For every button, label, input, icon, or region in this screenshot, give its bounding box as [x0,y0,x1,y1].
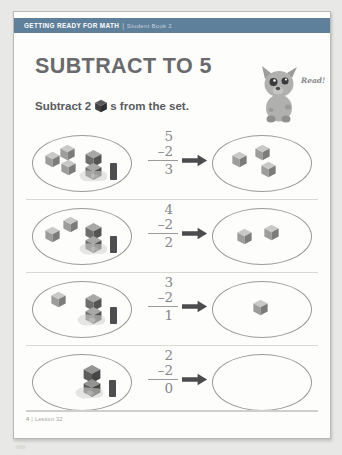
cube-icon [260,161,277,178]
subtrahend-line: –2 [140,290,178,305]
dog-mascot: Read! [257,64,327,126]
answer: 1 [140,308,178,323]
hand-icon [78,238,112,260]
cube-icon-removed [109,380,116,397]
answer: 3 [140,162,178,177]
arrow-icon [182,226,208,244]
subtrahend: 2 [164,216,173,232]
equation-bar [148,160,178,161]
page-footer: 4|Lesson 32 [26,416,63,422]
minuend: 2 [140,348,178,363]
hand-icon [78,165,112,187]
arrow-icon [182,153,208,171]
arrow-icon [182,372,208,390]
minuend: 5 [140,129,178,144]
result-set-oval [212,354,312,411]
cube-icon [254,144,271,161]
answer: 2 [140,235,178,250]
subtrahend-line: –2 [140,144,178,159]
subtrahend-line: –2 [140,363,178,378]
equation: 5 –2 3 [140,129,178,177]
header-series-title: GETTING READY FOR MATH [24,22,119,29]
subtrahend-line: –2 [140,217,178,232]
problem-row: 3 –2 1 [14,273,330,345]
hand-icon [76,309,110,331]
instruction-suffix: s from the set. [110,100,189,112]
worksheet-page: GETTING READY FOR MATH | Student Book 2 … [13,11,331,439]
subtrahend: 2 [164,143,173,159]
equation: 2 –2 0 [140,348,178,396]
scan-artifact [16,445,26,449]
hand-icon [74,382,108,404]
cube-icon-removed [110,307,117,324]
cube-icon [50,291,67,308]
dog-mascot-illustration [257,64,303,124]
equation: 3 –2 1 [140,275,178,323]
subtrahend: 2 [164,289,173,305]
cube-icon [94,99,108,115]
cube-icon-removed [110,236,117,253]
problem-row: 4 –2 2 [14,200,330,272]
page-title: SUBTRACT TO 5 [35,54,212,79]
read-speech-label: Read! [301,76,325,85]
problem-row: 5 –2 3 [14,127,330,199]
row-divider [26,410,318,412]
footer-lesson-label: Lesson 32 [35,416,63,422]
subtrahend: 2 [164,362,173,378]
arrow-icon [182,299,208,317]
instruction-prefix: Subtract 2 [35,100,91,112]
instruction-text: Subtract 2 s from the set. [35,98,189,114]
equation-bar [148,379,178,380]
cube-icon [252,299,269,316]
equation-bar [148,233,178,234]
problem-row: 2 –2 0 [14,346,330,418]
footer-separator: | [31,416,33,422]
equation-bar [148,306,178,307]
cube-icon [231,151,248,168]
equation: 4 –2 2 [140,202,178,250]
minuend: 3 [140,275,178,290]
header-separator: | [122,22,124,29]
cube-icon [263,224,280,241]
footer-page-number: 4 [26,416,29,422]
page-header-band: GETTING READY FOR MATH | Student Book 2 [14,18,330,33]
header-book-subtitle: Student Book 2 [127,22,172,29]
cube-icon [44,226,61,243]
cube-icon [60,159,77,176]
cube-icon [236,228,253,245]
answer: 0 [140,381,178,396]
minuend: 4 [140,202,178,217]
result-set-oval [212,208,312,265]
cube-icon [62,216,79,233]
cube-icon-removed [110,163,117,180]
